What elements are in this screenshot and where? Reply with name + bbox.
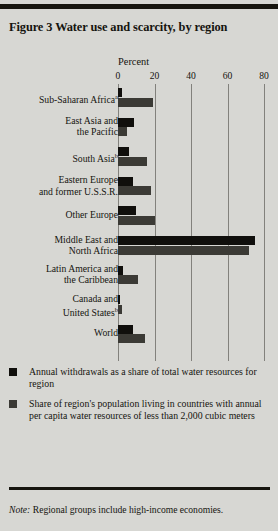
category-label: World xyxy=(0,327,118,338)
bar-series-2 xyxy=(118,127,127,136)
legend-label: Annual withdrawals as a share of total w… xyxy=(29,366,257,389)
figure-title: Figure 3 Water use and scarcity, by regi… xyxy=(9,20,227,35)
chart-legend: Annual withdrawals as a share of total w… xyxy=(9,366,271,430)
note-label: Note: xyxy=(9,504,30,515)
bar-series-1 xyxy=(118,118,134,127)
bar-series-1 xyxy=(118,147,129,156)
category-label: Canada andUnited Statesb xyxy=(0,293,118,319)
bar-series-2 xyxy=(118,334,145,343)
category-label: Middle East andNorth Africa xyxy=(0,234,118,256)
bar-series-2 xyxy=(118,157,147,166)
bottom-divider-rule xyxy=(9,487,270,490)
figure-page: Figure 3 Water use and scarcity, by regi… xyxy=(0,0,278,531)
plot-area: Sub-Saharan AfricaaEast Asia andthe Paci… xyxy=(0,84,278,361)
bar-series-2 xyxy=(118,186,151,195)
figure-note: Note: Regional groups include high-incom… xyxy=(9,504,278,515)
chart-row: Other Europe xyxy=(0,205,278,235)
chart-row: South Asiab xyxy=(0,146,278,176)
note-text: Regional groups include high-income econ… xyxy=(30,504,223,515)
legend-label: Share of region's population living in c… xyxy=(29,398,262,421)
x-tick-label: 40 xyxy=(186,70,196,81)
category-label: Sub-Saharan Africaa xyxy=(0,91,118,105)
chart-row: Middle East andNorth Africa xyxy=(0,235,278,265)
legend-swatch xyxy=(9,368,17,376)
chart-row: East Asia andthe Pacific xyxy=(0,117,278,147)
bar-series-1 xyxy=(118,177,133,186)
bar-series-2 xyxy=(118,305,122,314)
x-axis-title: Percent xyxy=(118,56,149,67)
x-tick-label: 0 xyxy=(116,70,121,81)
bar-series-1 xyxy=(118,206,136,215)
x-tick-label: 80 xyxy=(259,70,269,81)
category-label: South Asiab xyxy=(0,150,118,164)
legend-item: Annual withdrawals as a share of total w… xyxy=(9,366,271,389)
chart-row: Sub-Saharan Africaa xyxy=(0,87,278,117)
chart-row: Canada andUnited Statesb xyxy=(0,294,278,324)
bar-series-2 xyxy=(118,98,153,107)
x-tick-label: 60 xyxy=(223,70,233,81)
bar-series-1 xyxy=(118,295,120,304)
chart-row: Eastern Europeand former U.S.S.R. xyxy=(0,176,278,206)
bar-series-2 xyxy=(118,246,249,255)
category-label: Other Europe xyxy=(0,209,118,220)
legend-swatch xyxy=(9,400,17,408)
category-label: East Asia andthe Pacific xyxy=(0,115,118,137)
legend-item: Share of region's population living in c… xyxy=(9,398,271,421)
top-divider-rule xyxy=(0,4,278,9)
chart-row: Latin America andthe Caribbean xyxy=(0,265,278,295)
bar-series-1 xyxy=(118,236,255,245)
bar-series-1 xyxy=(118,325,133,334)
bar-series-2 xyxy=(118,275,138,284)
category-label: Latin America andthe Caribbean xyxy=(0,263,118,285)
x-tick-label: 20 xyxy=(150,70,160,81)
bar-series-1 xyxy=(118,266,123,275)
water-use-bar-chart: Percent 020406080 Sub-Saharan AfricaaEas… xyxy=(0,56,278,361)
category-label: Eastern Europeand former U.S.S.R. xyxy=(0,174,118,196)
bar-series-1 xyxy=(118,88,122,97)
chart-row: World xyxy=(0,324,278,354)
bar-series-2 xyxy=(118,216,155,225)
